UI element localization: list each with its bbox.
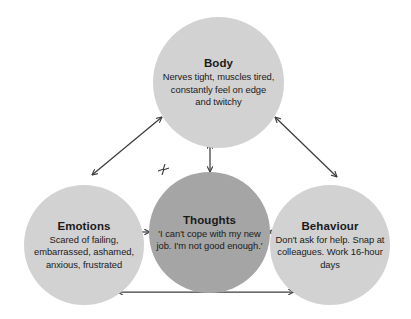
node-body-title: Body xyxy=(204,56,233,70)
node-behaviour-title: Behaviour xyxy=(301,219,358,233)
node-emotions-title: Emotions xyxy=(57,219,110,233)
node-body-text: Nerves tight, muscles tired, constantly … xyxy=(157,71,281,108)
node-thoughts-text: 'I can't cope with my new job. I'm not g… xyxy=(149,228,270,253)
cbt-cycle-diagram: Body Nerves tight, muscles tired, consta… xyxy=(0,0,411,319)
node-behaviour-text: Don't ask for help. Snap at colleagues. … xyxy=(271,234,389,271)
node-thoughts[interactable]: Thoughts 'I can't cope with my new job. … xyxy=(149,172,270,293)
connector-body-behaviour xyxy=(275,117,337,177)
node-body[interactable]: Body Nerves tight, muscles tired, consta… xyxy=(153,17,284,148)
connector-body-emotions-line xyxy=(92,117,162,175)
node-behaviour[interactable]: Behaviour Don't ask for help. Snap at co… xyxy=(270,185,390,305)
node-emotions[interactable]: Emotions Scared of failing, embarrassed,… xyxy=(24,185,144,305)
connector-body-emotions xyxy=(163,169,164,170)
node-thoughts-title: Thoughts xyxy=(183,213,236,227)
node-emotions-text: Scared of failing, embarrassed, ashamed,… xyxy=(26,234,142,271)
